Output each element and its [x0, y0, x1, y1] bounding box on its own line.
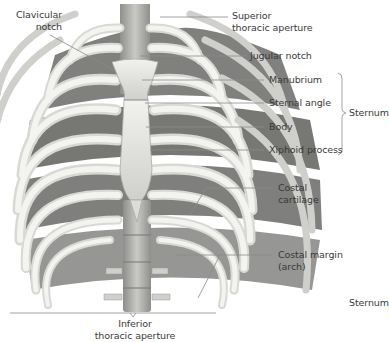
label-line: thoracic aperture — [232, 22, 313, 34]
label-line: Inferior — [70, 318, 200, 330]
label-clavicular-notch: Clavicular notch — [0, 9, 62, 33]
label-line: cartilage — [278, 194, 319, 206]
label-xiphoid-process: Xiphoid process — [269, 144, 343, 156]
label-line: Superior — [232, 10, 313, 22]
label-stray-sternum: Sternum — [349, 297, 389, 309]
label-superior-thoracic-aperture: Superior thoracic aperture — [232, 10, 313, 34]
label-sternum-group: Sternum — [349, 107, 389, 119]
sternal-body-shape — [120, 100, 152, 200]
label-line: thoracic aperture — [70, 330, 200, 342]
label-line: Costal margin — [278, 249, 343, 261]
label-line: notch — [0, 21, 62, 33]
label-jugular-notch: Jugular notch — [250, 50, 312, 62]
label-body: Body — [269, 121, 293, 133]
label-line: (arch) — [278, 261, 343, 273]
label-manubrium: Manubrium — [269, 74, 322, 86]
label-inferior-thoracic-aperture: Inferior thoracic aperture — [70, 318, 200, 342]
sternum-bracket — [338, 73, 346, 155]
label-line: Costal — [278, 182, 319, 194]
label-line: Clavicular — [0, 9, 62, 21]
label-costal-cartilage: Costal cartilage — [278, 182, 319, 206]
label-sternal-angle: Sternal angle — [269, 97, 331, 109]
label-costal-margin: Costal margin (arch) — [278, 249, 343, 273]
